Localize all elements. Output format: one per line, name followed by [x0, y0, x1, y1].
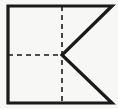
geometric-figure — [0, 0, 118, 109]
figure-container — [0, 0, 118, 109]
